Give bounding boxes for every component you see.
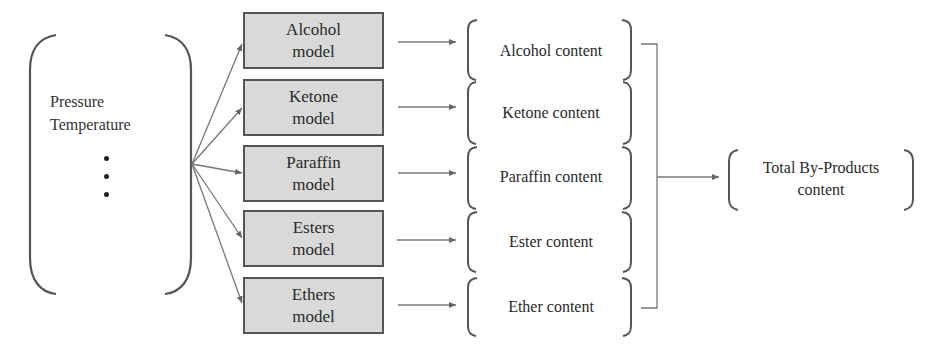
input-variables: Pressure Temperature [50, 90, 131, 136]
model-label-sub: model [292, 108, 335, 130]
input-pressure: Pressure [50, 90, 131, 113]
total-byproducts-content: Total By-Products content [737, 157, 905, 201]
model-label: Alcohol [286, 19, 341, 41]
model-label-sub: model [292, 306, 335, 328]
model-label-sub: model [292, 41, 335, 63]
model-label: Ketone [289, 86, 338, 108]
model-output-arrows [397, 42, 456, 305]
content-paraffin: Paraffin content [470, 168, 632, 186]
content-ester: Ester content [470, 233, 632, 251]
input-temperature: Temperature [50, 113, 131, 136]
total-label-line1: Total By-Products [737, 157, 905, 179]
model-box-esters: Esters model [243, 210, 384, 267]
content-alcohol: Alcohol content [470, 42, 632, 60]
total-label-line2: content [737, 179, 905, 201]
model-label-sub: model [292, 239, 335, 261]
model-box-ketone: Ketone model [243, 79, 384, 136]
model-label-sub: model [292, 174, 335, 196]
model-label: Paraffin [286, 152, 340, 174]
content-ether: Ether content [470, 298, 632, 316]
model-box-alcohol: Alcohol model [243, 12, 384, 69]
model-label: Ethers [292, 284, 335, 306]
model-box-ethers: Ethers model [243, 277, 384, 334]
fan-out-arrows [192, 44, 242, 303]
content-ketone: Ketone content [470, 104, 632, 122]
collector-line [641, 44, 719, 308]
vertical-ellipsis-icon [104, 156, 112, 210]
model-label: Esters [293, 217, 335, 239]
model-box-paraffin: Paraffin model [243, 145, 384, 202]
